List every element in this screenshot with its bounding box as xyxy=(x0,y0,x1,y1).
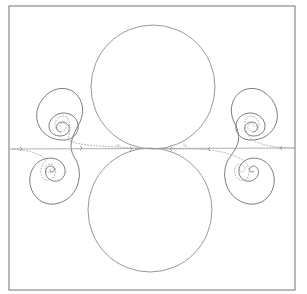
right-upper-inner-tail xyxy=(245,116,295,148)
left-upper-inner-tail xyxy=(55,116,150,149)
flow-line xyxy=(9,148,295,149)
arrow-tick-icon xyxy=(80,146,82,150)
diagram-canvas: ½ ½ xyxy=(0,0,307,294)
lower-circle xyxy=(88,148,212,272)
upper-circle xyxy=(91,25,215,149)
left-s-spiral-outer xyxy=(30,88,83,204)
right-flow-label: ½ xyxy=(183,143,187,148)
left-lower-inner-tail xyxy=(12,149,56,180)
left-flow-label: ½ xyxy=(116,143,120,148)
arrow-tick-icon xyxy=(208,147,210,151)
